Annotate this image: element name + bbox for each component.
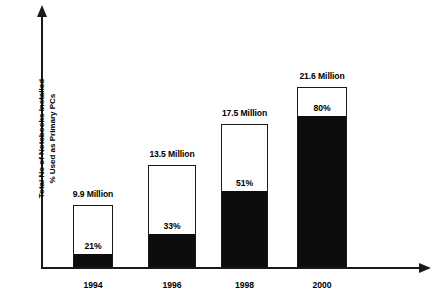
bar-total-label-1998: 17.5 Million (222, 108, 267, 118)
bar-percent-label-1998: 51% (236, 178, 253, 188)
bar-percent-label-1996: 33% (164, 221, 181, 231)
bar-total-label-1996: 13.5 Million (149, 149, 194, 159)
bar-outline-1996 (148, 165, 196, 268)
bar-outline-1998 (221, 124, 268, 268)
x-tick-label-2000: 2000 (313, 280, 332, 290)
x-axis-arrow-icon (419, 263, 431, 273)
bar-percent-label-2000: 80% (314, 103, 331, 113)
y-axis-label: Total No of Notebooks Installed % Used a… (37, 44, 58, 234)
bar-outline-1994 (73, 205, 113, 268)
bar-fill-primary-1996 (149, 234, 195, 267)
bar-group-1998: 17.5 Million 51% 1998 (221, 124, 268, 268)
bar-fill-primary-1994 (74, 254, 112, 267)
y-axis-label-line-2: % Used as Primary PCs (48, 44, 59, 234)
bar-fill-primary-2000 (298, 116, 346, 267)
bar-group-1994: 9.9 Million 21% 1994 (73, 205, 113, 268)
x-tick-label-1998: 1998 (235, 280, 254, 290)
bar-group-2000: 21.6 Million 80% 2000 (297, 87, 347, 268)
bar-fill-primary-1998 (222, 191, 267, 267)
y-axis-arrow-icon (37, 5, 47, 17)
x-tick-label-1994: 1994 (84, 280, 103, 290)
bar-group-1996: 13.5 Million 33% 1996 (148, 165, 196, 268)
bar-percent-label-1994: 21% (85, 241, 102, 251)
x-tick-label-1996: 1996 (163, 280, 182, 290)
y-axis-label-line-1: Total No of Notebooks Installed (37, 44, 48, 234)
bar-outline-2000 (297, 87, 347, 268)
bar-total-label-2000: 21.6 Million (299, 71, 344, 81)
bar-total-label-1994: 9.9 Million (73, 189, 113, 199)
chart-canvas: Total No of Notebooks Installed % Used a… (0, 0, 432, 300)
